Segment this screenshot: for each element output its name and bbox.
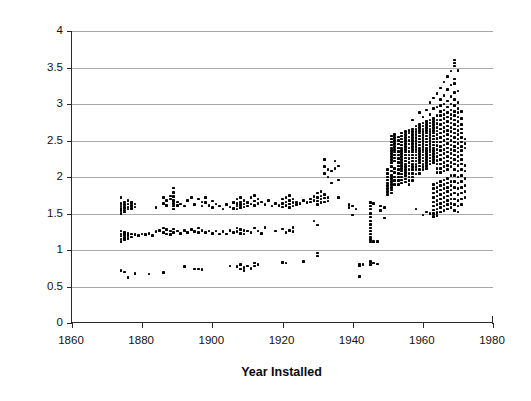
data-point [443, 205, 446, 208]
data-point [397, 168, 400, 171]
data-point [450, 165, 453, 168]
data-point [155, 206, 158, 209]
data-point [450, 95, 453, 98]
data-point [204, 201, 207, 204]
data-point [358, 275, 361, 278]
data-point [446, 160, 449, 163]
data-point [404, 157, 407, 160]
data-point [278, 204, 281, 207]
data-point [446, 186, 449, 189]
data-point [439, 206, 442, 209]
data-point [450, 70, 453, 73]
data-point [162, 202, 165, 205]
data-point [436, 155, 439, 158]
data-point [393, 176, 396, 179]
data-point [453, 82, 456, 85]
data-point [453, 141, 456, 144]
x-axis-tick [212, 323, 213, 328]
data-point [418, 141, 421, 144]
data-point [436, 141, 439, 144]
data-point [425, 109, 428, 112]
data-point [134, 233, 137, 236]
data-point [446, 142, 449, 145]
data-point [450, 122, 453, 125]
data-point [288, 229, 291, 232]
gridline [72, 177, 493, 178]
data-point [271, 205, 274, 208]
data-point [253, 200, 256, 203]
data-point [172, 191, 175, 194]
data-point [439, 145, 442, 148]
data-point [415, 160, 418, 163]
data-point [369, 220, 372, 223]
data-point [415, 208, 418, 211]
x-axis-tick [72, 323, 73, 328]
data-point [327, 196, 330, 199]
data-point [429, 157, 432, 160]
data-point [450, 180, 453, 183]
data-point [299, 202, 302, 205]
data-point [408, 154, 411, 157]
data-point [443, 139, 446, 142]
data-point [397, 147, 400, 150]
data-point [439, 189, 442, 192]
data-point [446, 155, 449, 158]
data-point [460, 145, 463, 148]
data-point [218, 233, 221, 236]
data-point [453, 98, 456, 101]
data-point [330, 182, 333, 185]
data-point [453, 163, 456, 166]
data-point [148, 273, 151, 276]
data-point [432, 196, 435, 199]
data-point [176, 201, 179, 204]
data-point [243, 229, 246, 232]
data-point [229, 206, 232, 209]
y-axis-tick-label: 1.5 [23, 208, 63, 220]
data-point [464, 147, 467, 150]
data-point [201, 229, 204, 232]
data-point [408, 183, 411, 186]
y-axis-tick-label: 1 [23, 244, 63, 256]
data-point [432, 141, 435, 144]
data-point [436, 144, 439, 147]
data-point [264, 226, 267, 229]
data-point [246, 205, 249, 208]
data-point [439, 114, 442, 117]
data-point [425, 211, 428, 214]
data-point [429, 101, 432, 104]
data-point [418, 138, 421, 141]
data-point [408, 147, 411, 150]
data-point [453, 198, 456, 201]
data-point [379, 209, 382, 212]
data-point [457, 107, 460, 110]
data-point [239, 228, 242, 231]
gridline [72, 31, 493, 32]
data-point [457, 120, 460, 123]
data-point [457, 155, 460, 158]
data-point [436, 126, 439, 129]
data-point [165, 204, 168, 207]
data-point [400, 138, 403, 141]
data-point [408, 143, 411, 146]
data-point [443, 170, 446, 173]
data-point [211, 232, 214, 235]
data-point [386, 172, 389, 175]
data-point [201, 205, 204, 208]
data-point [246, 201, 249, 204]
data-point [446, 203, 449, 206]
data-point [190, 196, 193, 199]
data-point [243, 206, 246, 209]
data-point [127, 276, 130, 279]
data-point [201, 268, 204, 271]
data-point [306, 201, 309, 204]
data-point [236, 198, 239, 201]
data-point [408, 165, 411, 168]
data-point [464, 142, 467, 145]
data-point [436, 159, 439, 162]
data-point [201, 201, 204, 204]
data-point [397, 157, 400, 160]
data-point [334, 167, 337, 170]
data-point [246, 265, 249, 268]
data-point [432, 209, 435, 212]
data-point [397, 172, 400, 175]
